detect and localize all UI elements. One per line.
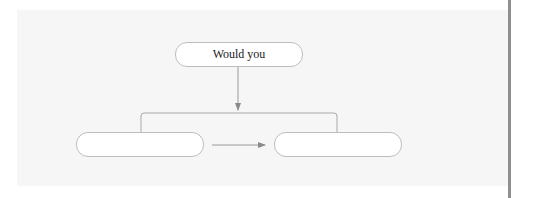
diagram-canvas bbox=[17, 10, 508, 186]
node-top-label: Would you bbox=[213, 47, 266, 62]
node-top[interactable]: Would you bbox=[175, 42, 303, 67]
node-left[interactable] bbox=[76, 132, 204, 157]
vertical-divider bbox=[508, 0, 511, 198]
node-right[interactable] bbox=[274, 132, 402, 157]
